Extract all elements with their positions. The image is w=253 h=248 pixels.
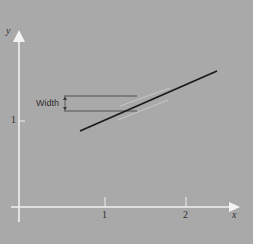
x-tick-label-2: 2 [183, 210, 188, 220]
y-tick-label-1: 1 [11, 115, 16, 125]
x-axis-label: x [232, 210, 236, 220]
width-arrow-up-icon [63, 97, 67, 101]
data-line [80, 71, 217, 131]
chart-plot [0, 0, 253, 244]
y-axis-arrow-icon [13, 30, 25, 42]
width-annotation: Width [36, 99, 59, 108]
width-arrow-down-icon [63, 107, 67, 111]
y-axis-label: y [6, 26, 10, 36]
chart-frame: y x 1 1 2 Width [0, 0, 253, 244]
x-tick-label-1: 1 [102, 210, 107, 220]
